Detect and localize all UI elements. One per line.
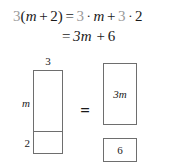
multiplication-dot-1: ·: [84, 9, 93, 22]
right-model-label-6: 6: [103, 145, 137, 156]
left-model-rectangle: [33, 70, 63, 154]
equation-line-1: 3(m+2)=3·m+3·2: [13, 9, 143, 24]
equation-plus-inner: +: [37, 9, 51, 24]
equation-coefficient-left: 3: [13, 9, 21, 24]
left-model-lower-height-label: 2: [10, 138, 30, 149]
equation-plus-outer: +: [104, 9, 118, 24]
equation-result-term1: 3m: [71, 29, 95, 44]
equation-line-2: =3m+6: [62, 29, 115, 44]
multiplication-dot-2: ·: [126, 9, 135, 22]
equation-constant-inner: 2: [50, 9, 58, 24]
equation-equals-1: =: [63, 9, 77, 24]
left-model-width-label: 3: [33, 56, 63, 67]
equation-result-term2: 6: [108, 29, 116, 44]
left-model-upper-height-label: m: [10, 98, 30, 109]
equation-result-plus: +: [94, 29, 108, 44]
right-model-label-3m: 3m: [103, 89, 137, 100]
equation-variable-term1: m: [94, 9, 105, 24]
equation-equals-2: =: [62, 29, 71, 44]
equation-coefficient-term2: 3: [118, 9, 126, 24]
equation-constant-term2: 2: [135, 9, 143, 24]
left-model-divider-line: [33, 131, 63, 132]
distributive-property-figure: 3(m+2)=3·m+3·2 =3m+6 3 m 2 = 3m 6: [0, 0, 187, 167]
diagram-equals-sign: =: [76, 102, 94, 119]
equation-coefficient-term1: 3: [77, 9, 85, 24]
equation-variable-m: m: [26, 9, 37, 24]
